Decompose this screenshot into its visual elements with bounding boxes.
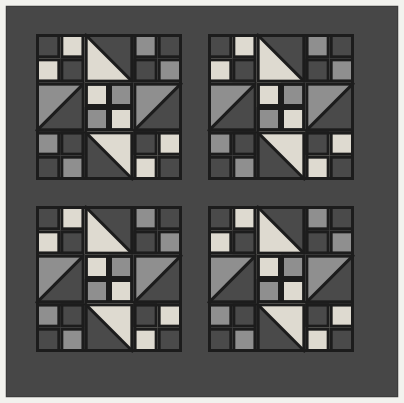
quilt-canvas — [0, 0, 404, 403]
quilt-diagram — [0, 0, 404, 403]
